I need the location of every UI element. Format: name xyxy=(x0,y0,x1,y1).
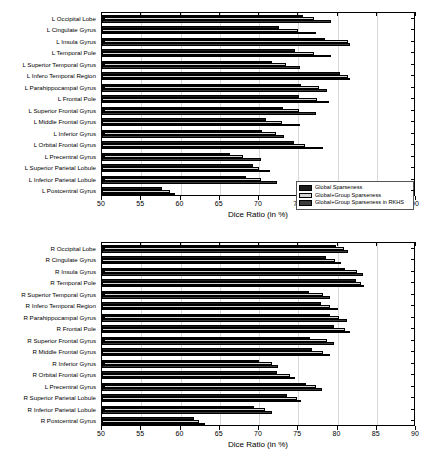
y-axis-tick-right xyxy=(411,317,415,318)
x-axis-tick-top xyxy=(180,242,181,246)
legend-swatch-icon-series1 xyxy=(299,185,312,191)
bar xyxy=(102,365,278,368)
y-axis-tick-label: L Frontal Pole xyxy=(58,95,96,102)
y-axis-tick-label: L Occipital Lobe xyxy=(52,14,96,21)
x-axis-tick-top xyxy=(258,242,259,246)
y-axis-tick xyxy=(101,363,105,364)
y-axis-labels-bottom: R Occipital LobeR Cingulate GyrusR Insul… xyxy=(0,242,99,426)
y-axis-tick-label: R Cingulate Gyrus xyxy=(45,256,96,263)
x-axis-tick-label: 70 xyxy=(254,200,262,207)
x-axis-tick-label: 80 xyxy=(333,430,341,437)
x-axis-tick-top xyxy=(101,12,102,16)
y-axis-tick-right xyxy=(411,41,415,42)
bar-rows-top xyxy=(102,13,414,195)
bar xyxy=(102,20,331,23)
y-axis-tick xyxy=(101,397,105,398)
bar-group xyxy=(102,416,414,427)
bar-group xyxy=(102,404,414,416)
y-axis-tick-label: L Precentral Gyrus xyxy=(45,152,96,159)
bar xyxy=(102,181,277,184)
y-axis-tick xyxy=(101,305,105,306)
y-axis-tick-right xyxy=(411,18,415,19)
bar-group xyxy=(102,301,414,313)
bar xyxy=(102,193,175,196)
bar-group xyxy=(102,105,414,117)
bar-group xyxy=(102,312,414,324)
bar-group xyxy=(102,128,414,140)
x-axis-tick-label: 55 xyxy=(136,430,144,437)
y-axis-labels-top: L Occipital LobeL Cingulate GyrusL Insul… xyxy=(0,12,99,196)
x-axis-tick-label: 70 xyxy=(254,430,262,437)
y-axis-tick xyxy=(101,340,105,341)
bar xyxy=(102,170,270,173)
bar xyxy=(102,158,261,161)
bar-group xyxy=(102,324,414,336)
x-axis-tick-label: 50 xyxy=(97,200,105,207)
figure-dice-ratio-comparison: L Occipital LobeL Cingulate GyrusL Insul… xyxy=(0,0,433,460)
y-axis-tick xyxy=(101,29,105,30)
x-axis-tick-top xyxy=(376,242,377,246)
y-axis-tick-right xyxy=(411,294,415,295)
y-axis-tick-label: L Postcentral Gyrus xyxy=(42,187,96,194)
bar xyxy=(102,377,295,380)
legend-swatch-icon-series2 xyxy=(299,193,312,199)
y-axis-tick xyxy=(101,179,105,180)
y-axis-tick xyxy=(101,282,105,283)
y-axis-tick-label: R Superior Frontal Gyrus xyxy=(27,336,96,343)
y-axis-tick-right xyxy=(411,420,415,421)
y-axis-tick-right xyxy=(411,271,415,272)
legend-label-series3: Global+Group Sparseness in RKHS xyxy=(315,199,404,206)
y-axis-tick-label: R Insula Gyrus xyxy=(55,267,96,274)
bar xyxy=(102,342,334,345)
y-axis-tick-label: R Occipital Lobe xyxy=(51,244,96,251)
bar xyxy=(102,147,323,150)
legend-item-global-group-sparseness-rkhs: Global+Group Sparseness in RKHS xyxy=(299,199,410,207)
bar-group xyxy=(102,358,414,370)
bar xyxy=(102,43,350,46)
y-axis-tick xyxy=(101,41,105,42)
chart-panel-left-hemisphere: L Occipital LobeL Cingulate GyrusL Insul… xyxy=(0,0,433,230)
bar-group xyxy=(102,94,414,106)
y-axis-tick-right xyxy=(411,374,415,375)
bar xyxy=(102,250,348,253)
x-axis-tick-top xyxy=(415,12,416,16)
bar-group xyxy=(102,117,414,129)
x-axis-tick-label: 60 xyxy=(176,200,184,207)
y-axis-tick-label: L Superior Temporal Gyrus xyxy=(22,60,96,67)
bar-group xyxy=(102,381,414,393)
bar xyxy=(102,423,205,426)
y-axis-tick-right xyxy=(411,75,415,76)
y-axis-tick-label: R Postcentral Gyrus xyxy=(41,417,96,424)
y-axis-tick xyxy=(101,271,105,272)
x-axis-tick-top xyxy=(415,242,416,246)
legend-top: Global Sparseness Global+Group Sparsenes… xyxy=(296,181,414,210)
y-axis-tick-right xyxy=(411,282,415,283)
y-axis-tick-right xyxy=(411,351,415,352)
legend-item-global-group-sparseness: Global+Group Sparseness xyxy=(299,192,410,200)
y-axis-tick-right xyxy=(411,328,415,329)
bar xyxy=(102,285,364,288)
y-axis-tick-label: R Parahippocampal Gyrus xyxy=(23,313,96,320)
bar-group xyxy=(102,335,414,347)
bar xyxy=(102,273,363,276)
plot-area-bottom xyxy=(101,242,415,426)
y-axis-tick xyxy=(101,64,105,65)
y-axis-tick-label: L Cingulate Gyrus xyxy=(47,26,96,33)
x-axis-tick-top xyxy=(297,12,298,16)
x-axis-tick-top xyxy=(219,242,220,246)
bar-group xyxy=(102,255,414,267)
y-axis-tick-label: L Superior Frontal Gyrus xyxy=(28,106,96,113)
y-axis-tick-right xyxy=(411,64,415,65)
bar xyxy=(102,112,316,115)
y-axis-tick-label: L Parahippocampal Gyrus xyxy=(25,83,96,90)
y-axis-tick-label: L Temporal Pole xyxy=(52,49,96,56)
x-axis-title-bottom: Dice Ratio (in %) xyxy=(101,440,415,449)
y-axis-tick xyxy=(101,133,105,134)
bar xyxy=(102,78,350,81)
y-axis-tick xyxy=(101,248,105,249)
x-axis-tick-label: 50 xyxy=(97,430,105,437)
y-axis-tick-right xyxy=(411,133,415,134)
y-axis-tick-right xyxy=(411,52,415,53)
y-axis-tick-right xyxy=(411,397,415,398)
x-axis-tick-label: 90 xyxy=(411,430,419,437)
